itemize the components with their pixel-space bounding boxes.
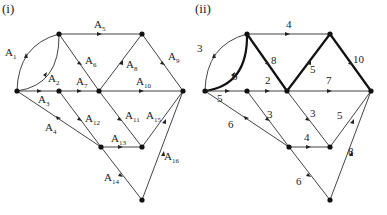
svg-text:A9: A9 [168, 50, 180, 65]
svg-text:A1: A1 [5, 46, 17, 61]
svg-text:3: 3 [310, 107, 316, 119]
svg-text:A10: A10 [136, 75, 151, 90]
svg-text:6: 6 [296, 175, 302, 187]
svg-text:10: 10 [353, 53, 365, 65]
network-diagrams: (i) [0, 0, 387, 215]
svg-text:A11: A11 [125, 109, 140, 124]
svg-text:6: 6 [228, 118, 234, 130]
svg-text:5: 5 [337, 109, 343, 121]
svg-text:4: 4 [304, 131, 310, 143]
figure-ii: (ii) [195, 1, 374, 203]
svg-text:6: 6 [232, 70, 238, 82]
svg-text:A7: A7 [76, 75, 88, 90]
figure-ii-title: (ii) [195, 1, 211, 16]
svg-text:8: 8 [271, 54, 277, 66]
svg-text:4: 4 [286, 18, 292, 30]
arrowheads [212, 32, 354, 177]
svg-text:A16: A16 [164, 150, 179, 165]
edge-s-a-outer [205, 34, 247, 91]
edge-labels-i: A1 A2 A3 A4 A5 A6 A7 A8 A9 A10 A11 A12 A… [5, 18, 180, 186]
edge-e-g [289, 147, 330, 200]
svg-text:A2: A2 [48, 72, 60, 87]
svg-text:A12: A12 [85, 112, 100, 127]
svg-text:8: 8 [348, 145, 354, 157]
svg-text:A15: A15 [146, 109, 161, 124]
svg-text:A6: A6 [85, 54, 97, 69]
svg-text:5: 5 [217, 92, 223, 104]
edge-A16 [142, 91, 183, 200]
svg-text:3: 3 [267, 108, 273, 120]
svg-text:2: 2 [265, 74, 271, 86]
svg-text:5: 5 [310, 63, 316, 75]
svg-text:7: 7 [326, 74, 332, 86]
figure-i: (i) [2, 1, 186, 203]
svg-text:3: 3 [197, 42, 203, 54]
svg-text:A5: A5 [94, 18, 106, 33]
svg-text:A8: A8 [126, 58, 138, 73]
svg-text:A14: A14 [104, 171, 119, 186]
svg-text:A13: A13 [111, 132, 126, 147]
edge-weights-ii: 3 6 5 6 4 8 2 5 10 7 3 3 4 6 5 8 [197, 18, 365, 187]
figure-i-title: (i) [2, 1, 14, 16]
svg-text:A4: A4 [45, 121, 57, 136]
